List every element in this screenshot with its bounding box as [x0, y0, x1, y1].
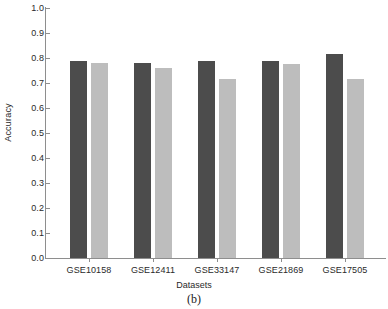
y-tick-label: 1.0: [18, 4, 44, 13]
bar-group: [262, 8, 301, 258]
bar: [219, 79, 236, 259]
y-tick-label: 0.6: [18, 104, 44, 113]
y-tick-label: 0.8: [18, 54, 44, 63]
x-axis-line: [45, 258, 386, 259]
y-tick-label: 0.5: [18, 129, 44, 138]
bar: [326, 54, 343, 258]
bar-group: [134, 8, 173, 258]
x-tick-mark: [281, 259, 282, 262]
y-tick-label: 0.1: [18, 229, 44, 238]
bar-group: [70, 8, 109, 258]
y-axis-ticks: 1.00.90.80.70.60.50.40.30.20.10.0: [12, 0, 44, 309]
x-tick-label: GSE17505: [307, 265, 383, 275]
bar-group: [326, 8, 365, 258]
x-tick-mark: [345, 259, 346, 262]
plot-area: [46, 8, 385, 258]
y-tick-label: 0.7: [18, 79, 44, 88]
x-tick-mark: [89, 259, 90, 262]
figure-caption: (b): [0, 293, 388, 306]
bar: [262, 61, 279, 258]
y-tick-label: 0.0: [18, 254, 44, 263]
x-tick-mark: [153, 259, 154, 262]
y-tick-label: 0.2: [18, 204, 44, 213]
bar: [70, 61, 87, 259]
bar: [91, 63, 108, 258]
bar: [283, 64, 300, 258]
y-axis-title: Accuracy: [4, 93, 13, 153]
bar: [347, 79, 364, 258]
bar: [198, 61, 215, 258]
bar-group: [198, 8, 237, 258]
y-tick-mark: [46, 258, 50, 259]
bar-chart-figure: 1.00.90.80.70.60.50.40.30.20.10.0 Accura…: [0, 0, 388, 309]
x-axis-title: Datasets: [0, 280, 388, 290]
x-tick-mark: [217, 259, 218, 262]
y-tick-label: 0.3: [18, 179, 44, 188]
bar: [134, 63, 151, 258]
y-tick-label: 0.9: [18, 29, 44, 38]
y-tick-label: 0.4: [18, 154, 44, 163]
bar: [155, 68, 172, 258]
